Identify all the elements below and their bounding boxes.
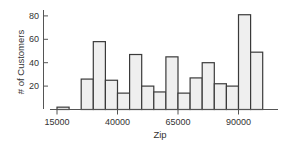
x-tick-label: 15000	[44, 117, 69, 127]
x-tick-label: 40000	[105, 117, 130, 127]
x-tick-label: 90000	[226, 117, 251, 127]
y-axis-title: # of Customers	[15, 30, 26, 95]
x-axis-ticks: 15000400006500090000	[44, 110, 251, 128]
x-tick-label: 65000	[165, 117, 190, 127]
histogram-bar	[130, 55, 142, 110]
histogram-bar	[202, 63, 214, 110]
histogram-bar	[142, 86, 154, 109]
histogram-bar	[178, 93, 190, 109]
histogram-bar	[251, 52, 263, 109]
y-axis-ticks: 20406080	[29, 11, 48, 91]
y-tick-label: 40	[29, 58, 39, 68]
histogram-bar	[154, 92, 166, 110]
histogram-bar	[239, 15, 251, 110]
histogram-bar	[190, 78, 202, 110]
histogram-bar	[105, 80, 117, 109]
histogram-bar	[214, 84, 226, 110]
histogram-bar	[93, 42, 105, 110]
histogram-bar	[118, 93, 130, 109]
histogram-chart: 20406080 15000400006500090000 Zip # of C…	[0, 0, 291, 152]
y-tick-label: 20	[29, 81, 39, 91]
y-tick-label: 60	[29, 34, 39, 44]
y-tick-label: 80	[29, 11, 39, 21]
histogram-bar	[166, 57, 178, 110]
histogram-bar	[81, 79, 93, 109]
histogram-bars	[57, 15, 263, 110]
histogram-bar	[226, 86, 238, 109]
x-axis-title: Zip	[153, 129, 166, 140]
